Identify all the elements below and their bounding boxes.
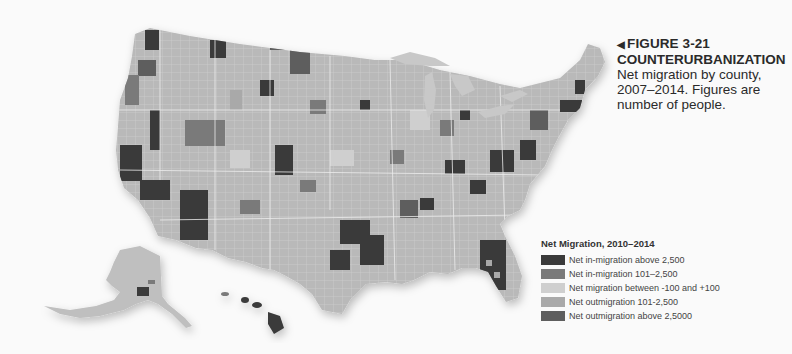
- legend-item: Net outmigration 101-2,500: [541, 295, 731, 308]
- figure-caption: ◀FIGURE 3-21 COUNTERURBANIZATION Net mig…: [617, 36, 787, 112]
- alaska: [44, 246, 192, 328]
- hawaii: [221, 292, 284, 334]
- figure-title: COUNTERURBANIZATION: [617, 52, 787, 67]
- left-triangle-icon: ◀: [617, 39, 625, 50]
- figure-description-line: Net migration by county,: [617, 67, 787, 82]
- legend-title: Net Migration, 2010–2014: [541, 238, 731, 249]
- legend-label: Net migration between -100 and +100: [569, 283, 720, 293]
- figure-label: ◀FIGURE 3-21: [617, 36, 787, 52]
- legend-label: Net outmigration 101-2,500: [569, 297, 678, 307]
- legend-item: Net in-migration 101–2,500: [541, 267, 731, 280]
- legend-label: Net in-migration above 2,500: [569, 255, 685, 265]
- legend-label: Net outmigration above 2,5000: [569, 311, 692, 321]
- legend-item: Net outmigration above 2,5000: [541, 309, 731, 322]
- legend-item: Net in-migration above 2,500: [541, 253, 731, 266]
- figure-description-line: 2007–2014. Figures are: [617, 82, 787, 97]
- legend-swatch: [541, 297, 565, 307]
- legend-swatch: [541, 311, 565, 321]
- legend-label: Net in-migration 101–2,500: [569, 269, 678, 279]
- legend-swatch: [541, 283, 565, 293]
- legend-swatch: [541, 269, 565, 279]
- legend-swatch: [541, 255, 565, 265]
- map-legend: Net Migration, 2010–2014 Net in-migratio…: [541, 238, 731, 323]
- figure-description-line: number of people.: [617, 97, 787, 112]
- legend-item: Net migration between -100 and +100: [541, 281, 731, 294]
